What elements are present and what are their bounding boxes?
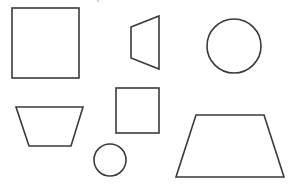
large-trapezoid <box>176 115 284 177</box>
shapes-diagram <box>0 0 298 188</box>
left-trapezoid <box>16 107 83 146</box>
large-circle <box>207 19 261 73</box>
stray-dot <box>97 0 99 2</box>
small-square <box>116 88 159 133</box>
small-circle <box>94 144 126 176</box>
large-square <box>12 8 79 78</box>
narrow-trapezoid <box>131 16 159 69</box>
